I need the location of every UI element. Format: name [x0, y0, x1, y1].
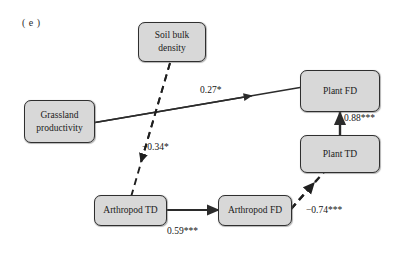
node-arthropod-td-label: Arthropod TD: [99, 204, 162, 217]
node-plant-td[interactable]: Plant TD: [300, 135, 380, 173]
edge-arthropod-fd-to-plant-td: [291, 172, 324, 209]
node-arthropod-td[interactable]: Arthropod TD: [94, 195, 167, 226]
edge-grassland-to-plant-fd: [95, 88, 300, 123]
node-arthropod-fd[interactable]: Arthropod FD: [218, 195, 292, 226]
node-arthropod-fd-label: Arthropod FD: [223, 204, 287, 217]
node-plant-td-label: Plant TD: [305, 148, 375, 161]
node-plant-fd-label: Plant FD: [305, 85, 375, 98]
node-grassland-productivity-line1: Grassland: [29, 109, 90, 122]
edge-label-arthropod-fd-to-plant-td: −0.74***: [306, 205, 342, 215]
node-soil-bulk-density-line1: Soil bulk: [143, 29, 201, 42]
edge-label-plant-td-to-plant-fd: 0.88***: [344, 113, 375, 123]
edge-label-grassland-to-plant-fd: 0.27*: [200, 85, 221, 95]
edge-label-arthropod-td-to-arthropod-fd: 0.59***: [167, 226, 198, 236]
edge-label-soil-to-arthropod-td: −0.34*: [142, 142, 169, 152]
edge-soil-to-arthropod-td: [131, 63, 170, 197]
node-soil-bulk-density-label: Soil bulkdensity: [143, 29, 201, 55]
node-grassland-productivity-line2: productivity: [29, 122, 90, 135]
node-soil-bulk-density-line2: density: [143, 42, 201, 55]
path-diagram-figure: ( e ): [0, 0, 394, 255]
node-soil-bulk-density[interactable]: Soil bulkdensity: [138, 22, 206, 62]
node-grassland-productivity-label: Grasslandproductivity: [29, 109, 90, 135]
node-grassland-productivity[interactable]: Grasslandproductivity: [24, 100, 95, 143]
node-plant-fd[interactable]: Plant FD: [300, 70, 380, 112]
